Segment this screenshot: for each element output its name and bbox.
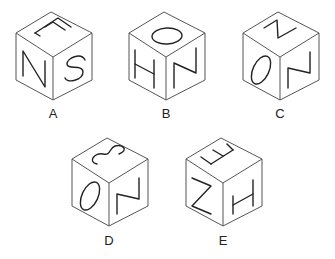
letter-n-icon	[288, 52, 310, 88]
option-label-c: C	[270, 106, 290, 121]
option-label-d: D	[99, 233, 119, 248]
letter-n-icon	[192, 178, 211, 214]
letter-f-icon	[35, 18, 71, 36]
letter-o-icon	[76, 179, 103, 213]
option-label-e: E	[213, 233, 233, 248]
letter-s-icon	[92, 146, 124, 164]
option-label-a: A	[43, 106, 63, 121]
cube-d	[72, 138, 148, 226]
cube-e	[186, 138, 262, 226]
letter-n-icon	[117, 178, 139, 214]
option-label-b: B	[156, 106, 176, 121]
cube-figure	[0, 0, 335, 259]
cube-a	[16, 12, 92, 100]
letter-n-icon	[23, 51, 45, 87]
letter-o-icon	[247, 53, 274, 87]
letter-s-icon	[65, 56, 85, 81]
cube-b	[129, 12, 205, 100]
letter-n-icon	[264, 20, 296, 38]
cube-c	[243, 12, 319, 100]
letter-n-icon	[174, 48, 196, 88]
letter-h-icon	[135, 50, 154, 88]
letter-o-icon	[152, 27, 183, 45]
letter-h-icon	[233, 180, 253, 214]
